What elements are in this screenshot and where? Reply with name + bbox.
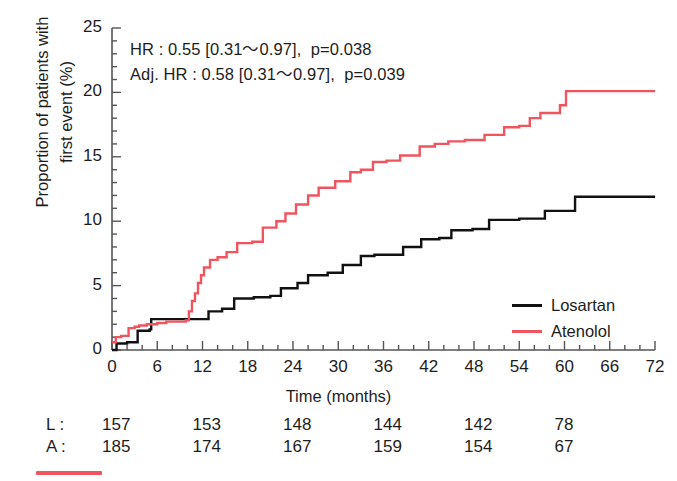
risk-table-cell: 174 <box>193 437 239 457</box>
legend-label: Losartan <box>551 292 615 318</box>
legend-line-icon <box>512 304 542 307</box>
risk-table-cell: 144 <box>374 415 420 435</box>
x-axis-label: Time (months) <box>0 387 677 406</box>
risk-table-cell: 154 <box>464 437 510 457</box>
x-tick-label: 0 <box>92 357 132 377</box>
risk-table-cell: 185 <box>102 437 148 457</box>
y-tick-label: 5 <box>66 275 102 295</box>
legend-label: Atenolol <box>551 318 611 344</box>
legend-item-atenolol[interactable]: Atenolol <box>512 318 615 344</box>
x-tick-label: 24 <box>273 357 313 377</box>
x-tick-label: 6 <box>137 357 177 377</box>
legend-line-icon <box>512 330 542 333</box>
x-tick-label: 18 <box>228 357 268 377</box>
x-tick-label: 54 <box>499 357 539 377</box>
bottom-red-rule <box>36 471 102 475</box>
hazard-ratio-annotation: HR : 0.55 [0.31～0.97], p=0.038 <box>130 36 372 60</box>
risk-table-cell: 157 <box>102 415 148 435</box>
risk-table-cell: 159 <box>374 437 420 457</box>
risk-table-row-header: A : <box>46 437 94 457</box>
x-tick-label: 48 <box>454 357 494 377</box>
x-tick-label: 66 <box>590 357 630 377</box>
adjusted-hazard-ratio-annotation: Adj. HR : 0.58 [0.31～0.97], p=0.039 <box>130 61 405 85</box>
risk-table-cell: 167 <box>283 437 329 457</box>
x-tick-label: 36 <box>364 357 404 377</box>
y-tick-label: 0 <box>66 339 102 359</box>
y-tick-label: 15 <box>66 146 102 166</box>
risk-table-cell: 67 <box>555 437 601 457</box>
kaplan-meier-figure: HR : 0.55 [0.31～0.97], p=0.038 Adj. HR :… <box>0 0 677 481</box>
x-tick-label: 72 <box>635 357 675 377</box>
risk-table-cell: 142 <box>464 415 510 435</box>
legend: LosartanAtenolol <box>512 292 615 344</box>
risk-table-cell: 148 <box>283 415 329 435</box>
legend-item-losartan[interactable]: Losartan <box>512 292 615 318</box>
risk-table-cell: 78 <box>555 415 601 435</box>
x-tick-label: 60 <box>545 357 585 377</box>
y-tick-label: 20 <box>66 81 102 101</box>
x-tick-label: 12 <box>183 357 223 377</box>
y-tick-label: 10 <box>66 210 102 230</box>
risk-table-row-header: L : <box>46 415 94 435</box>
y-tick-label: 25 <box>66 17 102 37</box>
y-axis-label-line-1: Proportion of patients with <box>30 0 54 262</box>
x-tick-label: 30 <box>318 357 358 377</box>
x-tick-label: 42 <box>409 357 449 377</box>
risk-table-cell: 153 <box>193 415 239 435</box>
